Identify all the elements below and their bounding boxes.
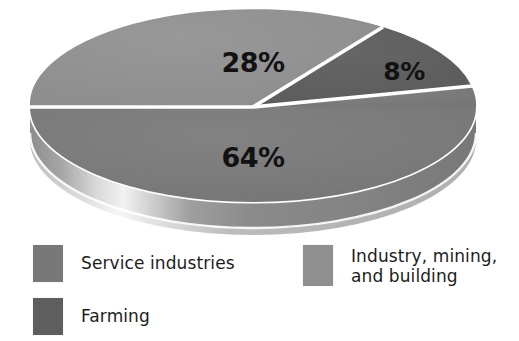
pie-chart-figure: 28% 8% 64% Service industries Farming In… [0,0,519,341]
legend-swatch-farming-icon [33,298,63,335]
pie-label-industry: 28% [221,47,285,78]
legend-label-service-industries: Service industries [81,254,235,273]
legend-label-farming: Farming [81,307,150,326]
pie-label-farming: 8% [383,57,425,86]
legend-item-farming[interactable]: Farming [33,298,298,335]
pie-top-face [30,9,476,202]
pie-chart-graphic: 28% 8% 64% [0,0,519,245]
legend-item-industry-mining-building[interactable]: Industry, mining, and building [303,245,519,286]
legend-label-industry-mining-building: Industry, mining, and building [351,246,497,286]
chart-legend: Service industries Farming Industry, min… [0,240,519,341]
legend-column-right: Industry, mining, and building [303,245,519,302]
legend-swatch-service-icon [33,245,63,282]
pie-label-service: 64% [221,142,285,173]
legend-swatch-industry-icon [303,245,333,286]
legend-item-service-industries[interactable]: Service industries [33,245,298,282]
legend-column-left: Service industries Farming [33,245,298,335]
